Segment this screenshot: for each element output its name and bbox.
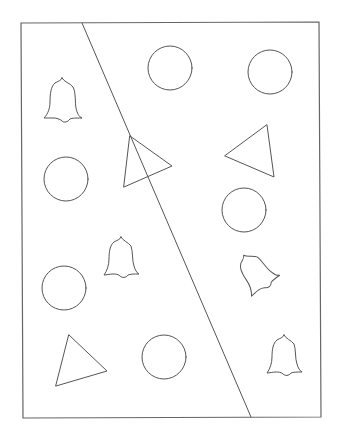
- bell-shape: [104, 237, 139, 277]
- circle-shape: [222, 188, 266, 232]
- triangle-shape: [124, 136, 172, 187]
- circle-shape: [42, 266, 86, 310]
- worksheet-canvas: [0, 0, 338, 442]
- circle-shape: [148, 46, 192, 90]
- bell-shape: [44, 78, 82, 122]
- triangle-shape: [56, 335, 107, 386]
- bell-shape: [230, 245, 282, 298]
- circle-shape: [44, 157, 88, 201]
- triangle-shape: [225, 125, 274, 177]
- dividing-line: [82, 23, 251, 417]
- circle-shape: [248, 50, 292, 94]
- circle-shape: [142, 335, 186, 379]
- bell-shape: [267, 335, 302, 375]
